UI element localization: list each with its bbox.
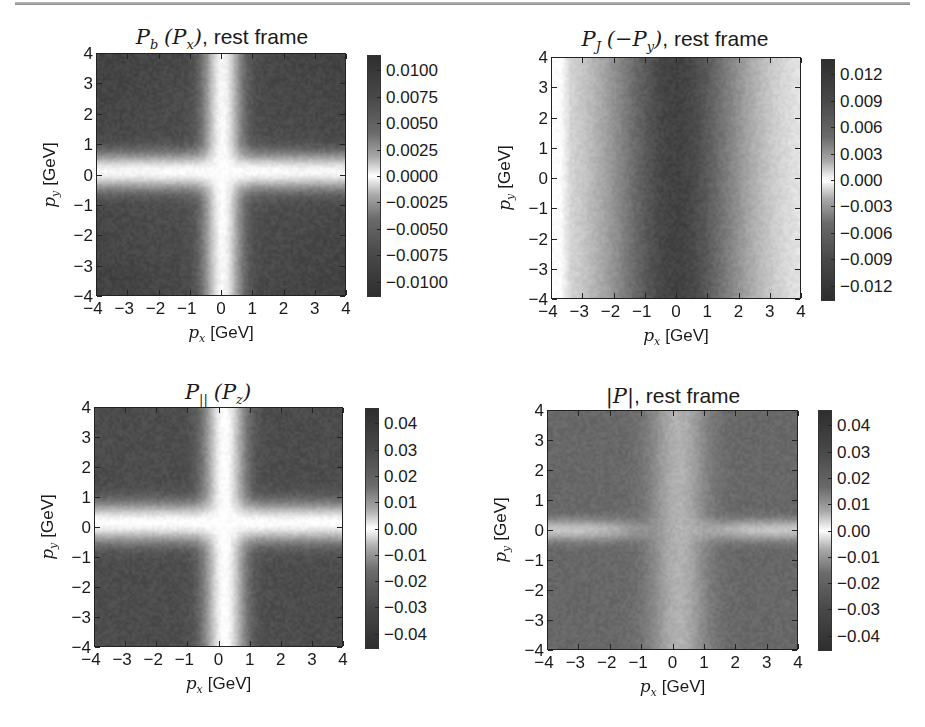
heatmap-canvas — [95, 408, 342, 646]
y-tick — [337, 557, 342, 558]
colorbar-tick — [831, 101, 835, 102]
y-tick — [548, 560, 553, 561]
colorbar-tick — [377, 97, 381, 98]
colorbar-tick-label: 0.04 — [384, 415, 417, 432]
x-tick — [610, 411, 611, 416]
y-tick-label: −2 — [74, 227, 93, 244]
y-axis-label: py[GeV] — [39, 494, 59, 560]
y-tick — [95, 467, 100, 468]
y-tick — [337, 617, 342, 618]
y-tick — [795, 269, 800, 270]
y-tick-label: −4 — [74, 288, 93, 305]
colorbar-tick-label: −0.02 — [837, 575, 880, 592]
y-tick — [97, 83, 102, 84]
x-tick — [610, 644, 611, 649]
x-tick — [187, 641, 188, 646]
y-tick-label: 1 — [82, 489, 91, 506]
colorbar-tick-label: −0.0075 — [386, 247, 448, 264]
colorbar-tick-label: 0.04 — [837, 417, 870, 434]
x-tick-label: 2 — [279, 300, 288, 317]
x-tick — [343, 408, 344, 413]
y-tick — [552, 299, 557, 300]
x-axis-var: p — [640, 676, 651, 696]
colorbar-tick-label: 0.009 — [840, 92, 883, 109]
colorbar-tick — [831, 180, 835, 181]
x-tick — [582, 58, 583, 63]
y-tick — [340, 296, 345, 297]
heatmap-canvas — [548, 411, 797, 649]
y-axis-var: p — [494, 200, 514, 211]
y-tick — [548, 590, 553, 591]
x-tick — [190, 54, 191, 59]
y-tick — [97, 53, 102, 54]
colorbar-tick — [375, 502, 379, 503]
x-tick — [707, 58, 708, 63]
x-tick-label: 1 — [699, 654, 708, 671]
colorbar-tick-label: −0.01 — [837, 548, 880, 565]
y-tick — [548, 470, 553, 471]
x-tick — [614, 293, 615, 298]
x-tick-label: 2 — [734, 303, 743, 320]
y-axis-sub: y — [500, 546, 513, 552]
x-axis-sub: x — [197, 683, 203, 696]
y-tick-label: −3 — [72, 609, 91, 626]
y-tick-label: 3 — [539, 79, 548, 96]
y-tick — [95, 437, 100, 438]
colorbar-tick — [828, 609, 832, 610]
y-axis-label: py[GeV] — [496, 145, 516, 211]
x-tick — [127, 290, 128, 295]
y-tick — [792, 620, 797, 621]
y-tick — [552, 208, 557, 209]
x-tick — [739, 293, 740, 298]
x-tick — [645, 293, 646, 298]
y-tick-label: 0 — [82, 519, 91, 536]
colorbar-tick — [377, 202, 381, 203]
x-tick — [219, 408, 220, 413]
y-tick-label: 3 — [535, 432, 544, 449]
panel-title: PJ (−Py), rest frame — [582, 28, 769, 53]
colorbar-tick — [375, 423, 379, 424]
y-tick — [552, 178, 557, 179]
x-tick — [770, 293, 771, 298]
x-tick-label: −3 — [566, 654, 585, 671]
y-axis-unit: [GeV] — [491, 497, 510, 540]
y-tick — [792, 530, 797, 531]
y-tick — [792, 590, 797, 591]
x-tick-label: 4 — [796, 303, 805, 320]
x-tick — [735, 644, 736, 649]
y-tick-label: −4 — [529, 291, 548, 308]
y-axis-sub: y — [49, 190, 62, 196]
colorbar-tick — [828, 504, 832, 505]
panel-title: Pb (Px), rest frame — [136, 26, 308, 51]
heatmap-canvas — [552, 58, 800, 298]
panel-title: |P|, rest frame — [606, 385, 740, 407]
y-tick — [795, 118, 800, 119]
colorbar-tick-label: 0.003 — [840, 145, 883, 162]
x-tick — [281, 641, 282, 646]
x-axis-var: p — [186, 673, 197, 693]
x-tick — [767, 644, 768, 649]
x-tick-label: −2 — [597, 654, 616, 671]
x-tick — [704, 644, 705, 649]
y-tick-label: −2 — [529, 230, 548, 247]
colorbar-tick-label: 0.00 — [837, 522, 870, 539]
y-tick — [795, 178, 800, 179]
colorbar-tick-label: 0.02 — [837, 469, 870, 486]
x-tick — [614, 58, 615, 63]
colorbar-tick-label: −0.0100 — [386, 273, 448, 290]
colorbar-tick-label: −0.03 — [384, 599, 427, 616]
x-tick-label: 3 — [762, 654, 771, 671]
x-tick — [94, 641, 95, 646]
colorbar-tick-label: 0.0100 — [386, 62, 438, 79]
y-tick — [548, 530, 553, 531]
colorbar-tick — [828, 636, 832, 637]
y-tick — [552, 57, 557, 58]
x-tick — [673, 644, 674, 649]
y-tick-label: 1 — [539, 139, 548, 156]
x-tick-label: 4 — [341, 300, 350, 317]
x-tick — [221, 54, 222, 59]
colorbar-tick-label: 0.000 — [840, 172, 883, 189]
y-tick — [340, 266, 345, 267]
y-tick — [548, 650, 553, 651]
heatmap-plot-area — [551, 57, 801, 299]
